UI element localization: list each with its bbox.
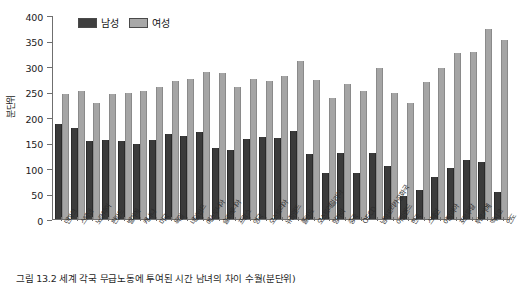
legend-entry-female: 여성 [129,15,169,30]
bar-female [454,53,461,219]
bar-female [187,79,194,219]
y-tick: 250 [47,93,52,94]
bar-groups [53,16,510,219]
y-tick-label: 100 [25,164,43,175]
legend-swatch-male-icon [78,18,97,28]
bar-female [470,52,477,219]
legend-swatch-female-icon [129,18,148,28]
bar-group [478,29,494,219]
bar-male [71,128,78,219]
bar-female [93,103,100,219]
plot-area: 050100150200250300350400 [52,16,510,220]
bar-male [165,134,172,219]
bar-female [313,80,320,219]
bar-group [289,61,305,219]
x-axis-labels: 덴마크스웨덴노르웨이핀란드벨기에캐나다미국독일네덜란드에스토니아슬로베니아프랑스… [53,221,511,269]
bar-group [164,81,180,219]
bar-female [360,91,367,219]
bar-female [156,87,163,219]
bar-female [438,68,445,219]
bar-group [431,68,447,219]
bar-group [180,79,196,219]
bar-female [485,29,492,219]
bar-group [54,94,70,219]
y-tick-label: 150 [25,139,43,150]
legend-entry-male: 남성 [78,15,118,30]
bar-female [501,40,508,219]
bar-group [132,91,148,219]
bar-female [140,91,147,219]
bar-female [266,81,273,219]
bar-male [353,173,360,219]
bar-group [305,80,321,219]
y-tick: 300 [47,67,52,68]
bar-female [250,79,257,219]
bar-group [368,68,384,219]
bar-group [85,103,101,219]
bar-female [172,81,179,219]
bar-group [352,91,368,219]
bar-group [70,91,86,219]
bar-group [242,79,258,219]
bar-group [446,53,462,219]
y-axis-label: 분단위 [4,95,17,118]
bar-female [203,72,210,219]
bar-female [125,93,132,219]
bar-male [180,136,187,219]
y-tick: 150 [47,144,52,145]
chart-legend: 남성 여성 [78,15,170,30]
bar-female [423,82,430,219]
y-tick-label: 0 [37,215,43,226]
bar-group [462,52,478,219]
bar-group [101,94,117,219]
y-tick: 350 [47,42,52,43]
bar-group [195,72,211,219]
bar-female [407,103,414,219]
legend-label-male: 남성 [101,15,118,30]
bar-group [148,87,164,219]
y-tick: 400 [47,16,52,17]
bar-group [258,81,274,219]
bar-group [117,93,133,219]
bar-male [259,137,266,219]
y-tick: 0 [47,220,52,221]
y-tick-label: 300 [25,62,43,73]
y-tick-label: 250 [25,88,43,99]
y-tick-label: 200 [25,113,43,124]
y-tick-label: 350 [25,37,43,48]
bar-female [78,91,85,219]
bar-female [109,94,116,219]
bar-female [344,84,351,219]
bar-group [493,40,509,219]
legend-label-female: 여성 [152,15,169,30]
bar-female [62,94,69,219]
y-tick: 50 [47,195,52,196]
bar-group [415,82,431,219]
y-tick: 100 [47,169,52,170]
bar-female [376,68,383,219]
bar-female [297,61,304,219]
y-tick-label: 400 [25,11,43,22]
bar-male [55,124,62,219]
figure-caption: 그림 13.2 세계 각국 무급노동에 투여된 시간 남녀의 차이 수월(분단위… [16,271,296,285]
y-tick: 200 [47,118,52,119]
y-tick-label: 50 [31,190,43,201]
